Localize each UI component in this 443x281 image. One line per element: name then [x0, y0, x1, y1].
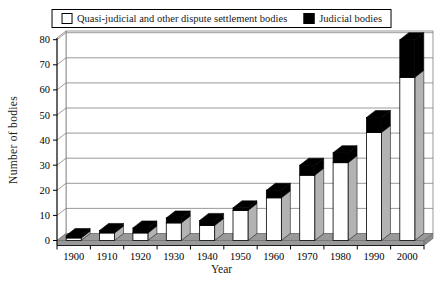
x-tick-label-1980: 1980: [330, 251, 351, 262]
bar-quasi-1920: [133, 233, 148, 241]
y-tick-label-40: 40: [40, 135, 51, 146]
x-tick-label-1970: 1970: [297, 251, 318, 262]
bar-judicial-1950: [233, 208, 248, 211]
bar-judicial-1910: [100, 230, 115, 233]
x-tick-label-1930: 1930: [163, 251, 184, 262]
y-tick-label-80: 80: [40, 34, 51, 45]
bar-quasi-1980: [333, 163, 348, 241]
chart-canvas: 0102030405060708019001910192019301940195…: [0, 0, 443, 281]
bar-quasi-1940: [200, 225, 215, 240]
legend-item-judicial: Judicial bodies: [303, 13, 382, 24]
bar-judicial-1990: [366, 118, 381, 133]
chart-figure: Quasi-judicial and other dispute settlem…: [0, 0, 443, 281]
bar-quasi-1960: [266, 198, 281, 241]
legend-item-quasi-judicial: Quasi-judicial and other dispute settlem…: [61, 13, 287, 24]
bar-judicial-1980: [333, 153, 348, 163]
legend-label-judicial: Judicial bodies: [319, 13, 382, 24]
x-tick-label-1950: 1950: [230, 251, 251, 262]
y-tick-label-20: 20: [40, 185, 51, 196]
x-tick-label-1960: 1960: [263, 251, 284, 262]
y-tick-label-10: 10: [40, 210, 51, 221]
quasi-judicial-swatch-icon: [61, 13, 72, 24]
bar-judicial-1960: [266, 190, 281, 198]
bar-quasi-1910: [100, 233, 115, 241]
bar-judicial-1900: [66, 235, 81, 238]
y-tick-label-30: 30: [40, 160, 51, 171]
x-tick-label-1910: 1910: [97, 251, 118, 262]
y-tick-label-50: 50: [40, 110, 51, 121]
y-tick-label-0: 0: [45, 235, 50, 246]
chart-legend: Quasi-judicial and other dispute settlem…: [51, 9, 392, 28]
bar-judicial-1930: [166, 218, 181, 223]
x-tick-label-1940: 1940: [197, 251, 218, 262]
y-tick-label-60: 60: [40, 84, 51, 95]
x-tick-label-1900: 1900: [63, 251, 84, 262]
bar-side-quasi-1970: [315, 168, 324, 240]
judicial-swatch-icon: [303, 13, 314, 24]
y-tick-label-70: 70: [40, 59, 51, 70]
bar-side-quasi-1980: [348, 156, 357, 241]
bar-judicial-2000: [400, 40, 415, 78]
bar-side-quasi-1990: [381, 126, 390, 241]
bar-judicial-1940: [200, 220, 215, 225]
bar-quasi-1950: [233, 210, 248, 240]
bar-quasi-2000: [400, 77, 415, 240]
x-axis-title: Year: [0, 263, 443, 275]
bar-judicial-1920: [133, 228, 148, 233]
x-tick-label-1920: 1920: [130, 251, 151, 262]
bar-side-judicial-2000: [415, 33, 424, 78]
floor-front: [57, 241, 424, 246]
bar-quasi-1930: [166, 223, 181, 241]
bar-quasi-1990: [366, 133, 381, 241]
legend-label-quasi-judicial: Quasi-judicial and other dispute settlem…: [77, 13, 287, 24]
bar-side-quasi-1960: [281, 191, 290, 241]
x-tick-label-2000: 2000: [397, 251, 418, 262]
bar-quasi-1970: [300, 175, 315, 240]
x-tick-label-1990: 1990: [363, 251, 384, 262]
bar-side-quasi-2000: [415, 70, 424, 240]
bar-judicial-1970: [300, 165, 315, 175]
